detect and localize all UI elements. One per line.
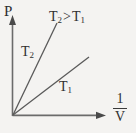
- annotation-t1-sub: 1: [81, 15, 85, 25]
- series-label-t1: T1: [59, 80, 72, 94]
- isotherm-pressure-inverse-volume-chart: P T2 T1 T2>T1 1 V: [0, 0, 136, 133]
- x-axis-label: 1 V: [109, 92, 131, 124]
- series-label-t1-sub: 1: [68, 85, 72, 95]
- temperature-comparison-annotation: T2>T1: [49, 10, 85, 24]
- series-label-t2-sub: 2: [30, 50, 34, 60]
- x-axis-arrowhead-icon: [96, 112, 106, 119]
- annotation-t2-sub: 2: [58, 15, 62, 25]
- annotation-t1-main: T: [72, 9, 81, 24]
- series-label-t2: T2: [21, 45, 34, 59]
- series-line-t2: [13, 23, 57, 115]
- series-label-t2-main: T: [21, 44, 30, 59]
- annotation-t2-main: T: [49, 9, 58, 24]
- annotation-operator: >: [62, 9, 72, 24]
- y-axis-label: P: [4, 4, 12, 19]
- x-axis-label-denominator: V: [109, 110, 131, 125]
- series-line-t1: [13, 57, 89, 115]
- series-label-t1-main: T: [59, 79, 68, 94]
- x-axis-label-numerator: 1: [109, 92, 131, 107]
